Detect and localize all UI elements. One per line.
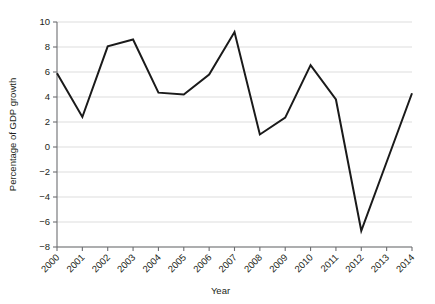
- y-tick-label: −2: [39, 166, 50, 177]
- y-tick-label: −8: [39, 241, 50, 252]
- y-tick-label: 6: [45, 66, 50, 77]
- y-tick-label: 4: [45, 91, 50, 102]
- y-tick-label: 10: [39, 16, 50, 27]
- y-tick-label: 8: [45, 41, 50, 52]
- x-tick-label: 2001: [64, 252, 87, 275]
- x-tick-label: 2004: [140, 252, 163, 275]
- y-tick-label: −6: [39, 216, 50, 227]
- gdp-growth-series-line: [57, 32, 412, 231]
- x-tick-label: 2009: [267, 252, 290, 275]
- y-tick-label: 2: [45, 116, 50, 127]
- x-axis-title: Year: [211, 285, 230, 296]
- x-tick-label: 2008: [242, 252, 265, 275]
- x-tick-label: 2014: [394, 252, 417, 275]
- x-tick-label: 2010: [292, 252, 315, 275]
- x-tick-label: 2012: [343, 252, 366, 275]
- x-tick-label: 2011: [318, 252, 340, 274]
- y-tick-label: −4: [39, 191, 50, 202]
- chart-canvas: 1086420−2−4−6−8 200020012002200320042005…: [0, 0, 435, 304]
- x-tick-label: 2007: [216, 252, 239, 275]
- gdp-growth-line-chart: 1086420−2−4−6−8 200020012002200320042005…: [0, 0, 435, 304]
- x-tick-label: 2003: [115, 252, 138, 275]
- x-tick-label: 2005: [165, 252, 188, 275]
- x-tick-labels: 2000200120022003200420052006200720082009…: [39, 252, 417, 275]
- y-tick-labels: 1086420−2−4−6−8: [39, 16, 50, 252]
- x-tick-marks: [57, 247, 412, 251]
- x-tick-label: 2002: [89, 252, 112, 275]
- x-tick-label: 2000: [39, 252, 62, 275]
- x-tick-label: 2006: [191, 252, 214, 275]
- y-tick-marks: [53, 22, 57, 247]
- x-tick-label: 2013: [368, 252, 391, 275]
- y-tick-label: 0: [45, 141, 50, 152]
- y-axis-title: Percentage of GDP growth: [7, 78, 18, 191]
